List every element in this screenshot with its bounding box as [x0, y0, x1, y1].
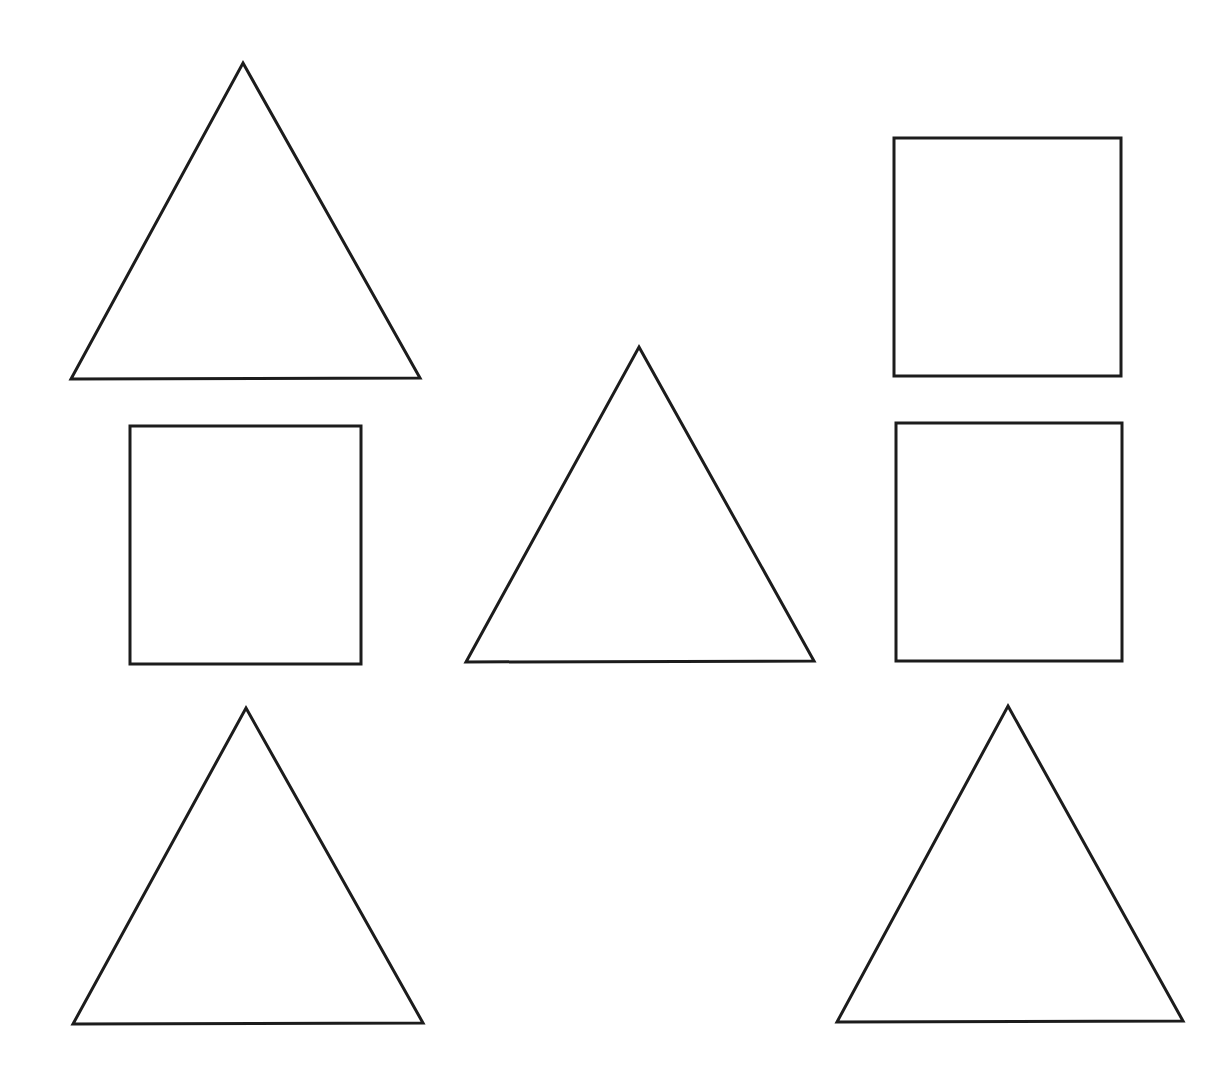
- square-middle-left: [130, 426, 361, 664]
- triangle-top-left: [71, 63, 420, 379]
- triangle-center: [466, 347, 814, 662]
- square-top-right: [894, 138, 1121, 376]
- square-middle-right: [896, 423, 1122, 661]
- triangle-bottom-left: [73, 708, 423, 1024]
- triangle-bottom-right: [837, 706, 1183, 1022]
- shapes-canvas: [0, 0, 1228, 1085]
